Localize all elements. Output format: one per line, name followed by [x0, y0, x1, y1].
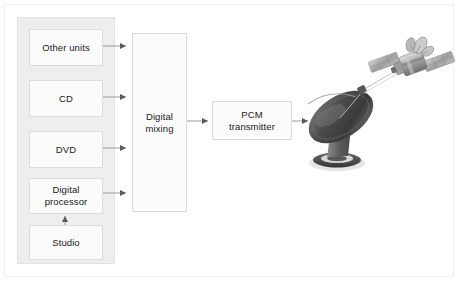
box-digital-processor-label: Digital processor [45, 184, 88, 208]
box-dvd[interactable]: DVD [29, 131, 103, 168]
box-other-units[interactable]: Other units [29, 29, 103, 66]
uplink-beam [364, 60, 407, 93]
satellite-solar-panel-right [423, 51, 455, 72]
box-cd[interactable]: CD [29, 80, 103, 117]
dish-rim-highlight [308, 94, 356, 104]
satellite-dish [299, 80, 382, 171]
uplink-beam-line-lower [364, 71, 402, 93]
satellite [365, 25, 456, 90]
dish-base-ring [313, 153, 361, 168]
box-digital-mixing[interactable]: Digital mixing [132, 33, 187, 212]
box-other-units-label: Other units [42, 42, 90, 54]
dish-base-hub [327, 156, 347, 162]
dish-stand [327, 117, 352, 157]
box-digital-processor[interactable]: Digital processor [29, 178, 103, 214]
uplink-beam-arrowhead [396, 60, 407, 70]
box-pcm-transmitter-label: PCM transmitter [229, 109, 275, 133]
box-digital-mixing-label: Digital mixing [145, 111, 173, 135]
diagram-canvas: Other units CD DVD Digital processor Stu… [0, 0, 460, 283]
box-studio-label: Studio [52, 237, 80, 249]
satellite-body [398, 49, 427, 76]
satellite-nose [389, 61, 404, 76]
uplink-beam-line-upper [366, 66, 404, 88]
dish-feed-horn [357, 85, 368, 96]
satellite-solar-panel-left [368, 52, 400, 73]
dish-ground-shadow [309, 155, 365, 171]
box-studio[interactable]: Studio [29, 225, 103, 260]
box-dvd-label: DVD [56, 144, 76, 156]
box-cd-label: CD [59, 93, 73, 105]
dish-reflector [299, 80, 382, 154]
box-pcm-transmitter[interactable]: PCM transmitter [212, 101, 292, 140]
satellite-antenna-array [401, 30, 437, 64]
dish-feed-arm [340, 92, 362, 118]
dish-base-inner [321, 154, 353, 163]
